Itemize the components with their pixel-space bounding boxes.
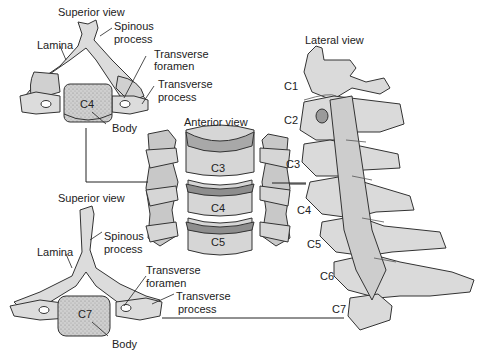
c7-view-label: Superior view [58,192,125,204]
lateral-c1-label: C1 [284,80,298,92]
c7-transverse-foramen-label-2: foramen [146,277,186,289]
c7-spinous-label-2: process [104,243,143,255]
c7-transverse-foramen-label-1: Transverse [146,264,201,276]
c4-transverse-foramen-label-2: foramen [154,60,194,72]
c4-spinous-label-1: Spinous [114,20,154,32]
lateral-view-label: Lateral view [305,34,364,46]
c7-body-label: Body [112,338,137,350]
c7-spinous-label-1: Spinous [104,230,144,242]
anterior-c3-label: C3 [211,162,225,174]
lateral-c6-label: C6 [320,270,334,282]
c4-view-label: Superior view [58,6,125,18]
c4-body-label: Body [112,122,137,134]
anterior-view-label: Anterior view [184,116,248,128]
lateral-vertebrae [300,46,474,330]
c7-transverse-process-label-1: Transverse [176,290,231,302]
cervical-vertebrae-illustration [0,0,482,356]
c4-transverse-process-label-2: process [158,91,197,103]
c7-vertebra-label: C7 [78,308,92,320]
c4-spinous-label-2: process [114,33,153,45]
lateral-c4-label: C4 [297,204,311,216]
c7-lamina-label: Lamina [37,246,73,258]
c4-transverse-foramen-label-1: Transverse [154,48,209,60]
lateral-c2-label: C2 [284,114,298,126]
c4-vertebra-label: C4 [80,98,94,110]
lateral-c3-label: C3 [286,158,300,170]
lateral-c5-label: C5 [307,238,321,250]
c7-transverse-process-label-2: process [178,303,217,315]
lateral-c7-label: C7 [332,303,346,315]
c4-lamina-label: Lamina [37,39,73,51]
c4-transverse-process-label-1: Transverse [158,78,213,90]
anterior-c4-label: C4 [211,202,225,214]
anterior-c5-label: C5 [211,236,225,248]
